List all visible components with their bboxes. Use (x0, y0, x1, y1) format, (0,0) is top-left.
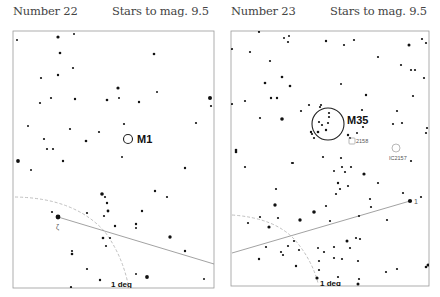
star (288, 35, 290, 37)
star (333, 246, 335, 248)
star (365, 94, 367, 96)
star (361, 109, 363, 111)
scale-label: 1 deg (320, 279, 341, 288)
star (420, 196, 422, 198)
star (350, 166, 352, 168)
star (39, 102, 41, 104)
star (56, 35, 59, 38)
star (50, 97, 52, 99)
star (349, 247, 351, 249)
star (423, 77, 425, 79)
star (317, 131, 320, 134)
star (333, 257, 335, 259)
star (40, 77, 42, 79)
star (51, 211, 53, 213)
star (52, 148, 54, 150)
star (269, 60, 271, 62)
star (105, 245, 107, 247)
star (293, 240, 295, 242)
star (337, 182, 339, 184)
star (318, 260, 320, 262)
star (357, 260, 359, 262)
star (86, 268, 88, 270)
star (235, 151, 238, 154)
star (145, 275, 149, 279)
star (281, 76, 284, 79)
star (277, 217, 279, 219)
star (258, 31, 260, 33)
object-label: IC2157 (389, 155, 407, 161)
star (59, 52, 62, 55)
star (107, 210, 110, 213)
star (370, 206, 372, 208)
star (287, 245, 289, 247)
star (104, 196, 106, 198)
star (30, 169, 32, 171)
star (426, 127, 428, 129)
star (392, 123, 394, 125)
star (412, 95, 414, 97)
star (62, 160, 64, 162)
star (69, 128, 71, 130)
star (103, 215, 105, 217)
star (287, 41, 289, 43)
star (327, 122, 329, 124)
star (321, 124, 323, 126)
star (109, 237, 111, 239)
star (273, 203, 276, 206)
star (346, 240, 349, 243)
star (72, 67, 74, 69)
star (275, 188, 277, 190)
star (156, 91, 158, 93)
star (385, 271, 387, 273)
star (153, 53, 156, 56)
star (247, 222, 249, 224)
star (106, 202, 108, 204)
star (98, 131, 100, 133)
star (421, 38, 423, 40)
star (401, 122, 403, 124)
star (347, 185, 349, 187)
star (27, 125, 29, 127)
star-charts: M11 degζM352158IC21571 deg1 (0, 0, 440, 297)
star (184, 167, 186, 169)
star (319, 106, 321, 108)
star (377, 56, 379, 58)
star (71, 253, 74, 256)
star (425, 42, 427, 44)
object-label: M35 (347, 114, 368, 126)
star (283, 37, 285, 39)
chart-frame (13, 31, 214, 288)
star (292, 162, 294, 164)
star (210, 105, 212, 107)
star (358, 278, 360, 280)
star (118, 97, 120, 99)
star (265, 246, 267, 248)
star (295, 265, 297, 267)
star (289, 85, 292, 88)
star (276, 97, 278, 99)
star (258, 258, 260, 260)
star (116, 86, 119, 89)
star (280, 117, 284, 121)
star (402, 192, 404, 194)
star (425, 266, 428, 269)
object-label: M1 (137, 133, 152, 145)
star (46, 148, 48, 150)
star (166, 196, 168, 198)
star (184, 250, 186, 252)
star (57, 74, 59, 76)
star (308, 104, 310, 106)
star (410, 69, 412, 71)
star (317, 247, 319, 249)
star (168, 235, 171, 238)
star (344, 171, 346, 173)
star (16, 39, 18, 41)
star (135, 223, 137, 225)
star (322, 156, 324, 158)
star (85, 140, 88, 143)
star (208, 96, 212, 100)
star (106, 99, 109, 102)
star (414, 69, 416, 71)
star (312, 210, 316, 214)
